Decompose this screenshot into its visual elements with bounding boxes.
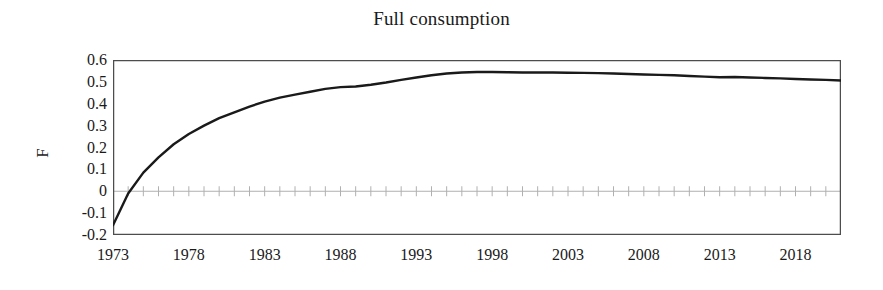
y-axis-tick-label: -0.1 [55,205,107,221]
y-axis-tick-label: 0 [55,183,107,199]
y-axis-tick-label: 0.4 [55,96,107,112]
y-axis-tick-label: 0.2 [55,140,107,156]
plot-frame [114,61,841,235]
x-axis-tick-labels: 1973197819831988199319982003200820132018 [0,246,883,274]
y-axis-tick-label: 0.1 [55,161,107,177]
x-axis-tick-label: 1998 [457,246,527,264]
x-axis-tick-label: 2008 [609,246,679,264]
chart-figure: Full consumption F 0.60.50.40.30.20.10-0… [0,0,883,290]
x-axis-tick-label: 1988 [306,246,376,264]
x-axis-tick-label: 1978 [154,246,224,264]
x-axis-tick-label: 1993 [381,246,451,264]
x-axis-tick-label: 2003 [533,246,603,264]
x-axis-tick-label: 1983 [230,246,300,264]
x-axis-tick-label: 1973 [78,246,148,264]
x-axis-tick-label: 2013 [685,246,755,264]
chart-title: Full consumption [0,8,883,30]
x-axis-tick-label: 2018 [761,246,831,264]
plot-area [113,60,841,235]
plot-svg [113,60,841,235]
y-axis-tick-labels: 0.60.50.40.30.20.10-0.1-0.2 [55,50,107,246]
y-axis-tick-label: -0.2 [55,227,107,243]
y-axis-tick-label: 0.5 [55,74,107,90]
y-axis-tick-label: 0.6 [55,52,107,68]
data-series-line [113,72,841,225]
y-axis-tick-label: 0.3 [55,118,107,134]
